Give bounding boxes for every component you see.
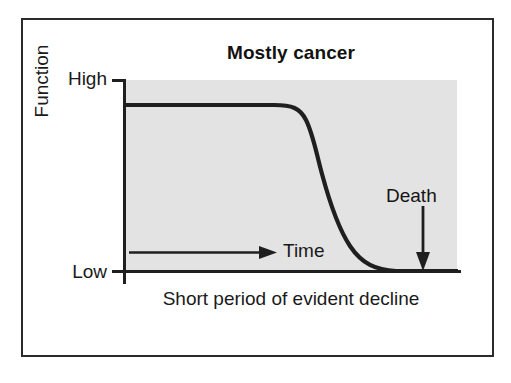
y-tick-mark-high <box>112 79 124 82</box>
figure-root: Mostly cancer High Low Function Time Dea… <box>0 0 511 383</box>
y-axis-title: Function <box>30 26 54 136</box>
chart-title: Mostly cancer <box>124 42 458 64</box>
y-tick-mark-low <box>112 270 124 273</box>
function-decline-curve <box>124 78 458 276</box>
y-tick-label-low: Low <box>72 261 107 283</box>
figure-caption: Short period of evident decline <box>124 288 458 310</box>
y-tick-label-high: High <box>68 68 107 90</box>
